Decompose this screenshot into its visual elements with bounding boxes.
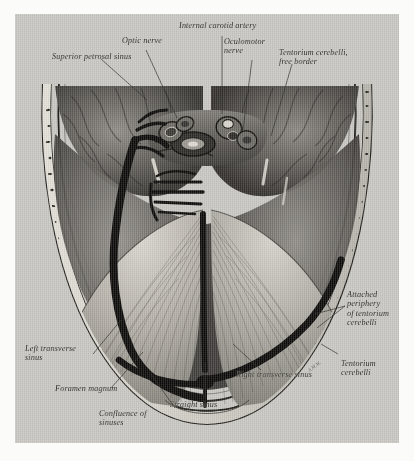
label-oculomotor-nerve: Oculomotor nerve bbox=[224, 37, 265, 56]
label-straight-sinus: Straight sinus bbox=[170, 400, 217, 409]
label-tentorium-cerebelli-free-border: Tentorium cerebelli, free border bbox=[279, 48, 348, 67]
straight-sinus bbox=[203, 214, 205, 370]
anatomy-plate: Superior petrosal sinus Optic nerve Inte… bbox=[15, 14, 399, 443]
label-left-transverse-sinus: Left transverse sinus bbox=[25, 344, 76, 363]
label-foramen-magnum: Foramen magnum bbox=[55, 384, 117, 393]
label-confluence-of-sinuses: Confluence of sinuses bbox=[99, 409, 147, 428]
label-right-transverse-sinus: Right transverse sinus bbox=[236, 370, 312, 379]
label-attached-periphery-of-tentorium-cerebelli: Attached periphery of tentorium cerebell… bbox=[347, 290, 389, 328]
label-tentorium-cerebelli: Tentorium cerebelli bbox=[341, 359, 376, 378]
label-superior-petrosal-sinus: Superior petrosal sinus bbox=[52, 52, 132, 61]
cranial-base-drawing bbox=[15, 14, 399, 443]
plate-illustration bbox=[15, 14, 399, 443]
label-internal-carotid-artery: Internal carotid artery bbox=[179, 21, 256, 30]
label-optic-nerve: Optic nerve bbox=[122, 36, 162, 45]
